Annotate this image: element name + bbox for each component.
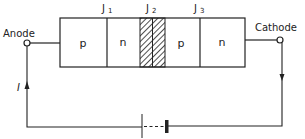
layer-p1-label: p — [80, 37, 87, 50]
cathode-label: Cathode — [255, 22, 297, 33]
thyristor-diagram: p n p n J 1 J 2 J 3 Anode Cathode I — [0, 0, 305, 139]
junction-label-j3: J 3 — [193, 3, 204, 15]
battery-thick-plate — [165, 120, 169, 133]
device-body — [60, 18, 245, 67]
anode-terminal-icon — [24, 40, 30, 46]
j3-main: J — [193, 3, 197, 14]
current-down-arrow-icon — [280, 74, 285, 81]
current-label: I — [17, 82, 20, 93]
junction-label-j2: J 2 — [145, 3, 156, 15]
battery-icon — [142, 114, 169, 138]
cathode-terminal-icon — [277, 37, 283, 43]
j1-sub: 1 — [108, 7, 112, 15]
j3-sub: 3 — [200, 7, 204, 15]
j2-main: J — [145, 3, 149, 14]
j2-sub: 2 — [152, 7, 156, 15]
layer-n1-label: n — [120, 36, 127, 49]
j1-main: J — [101, 3, 105, 14]
anode-label: Anode — [3, 28, 35, 39]
layer-n2-label: n — [219, 36, 226, 49]
junction-label-j1: J 1 — [101, 3, 112, 15]
layer-p2-label: p — [178, 37, 185, 50]
current-up-arrow-icon — [25, 81, 30, 89]
